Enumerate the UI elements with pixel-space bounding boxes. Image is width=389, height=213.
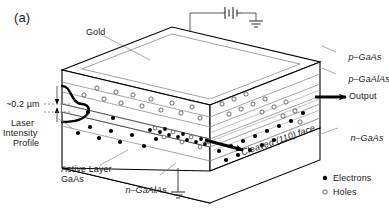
- label-output: Output: [349, 91, 377, 102]
- hole-marker: [244, 92, 248, 96]
- electron-marker: [154, 137, 158, 141]
- electron-marker: [130, 133, 134, 137]
- label-active-layer-line2: GaAs: [61, 174, 84, 185]
- legend-label-electrons: Electrons: [333, 173, 371, 184]
- label-laser-profile-line1: Laser: [11, 118, 34, 129]
- label-thickness: ~0.2 µm: [6, 99, 40, 110]
- hole-marker: [119, 101, 123, 105]
- legend-electron-dot: [323, 176, 327, 180]
- legend-markers: [323, 176, 327, 194]
- label-p-gaalas: p–GaAlAs: [338, 63, 389, 95]
- hole-marker: [149, 97, 153, 101]
- hole-marker: [159, 108, 163, 112]
- hole-marker: [293, 109, 297, 113]
- hole-marker: [131, 93, 135, 97]
- electron-marker: [118, 140, 122, 144]
- electron-marker: [109, 129, 113, 133]
- hole-marker: [95, 86, 99, 90]
- electron-marker: [289, 119, 293, 123]
- hole-marker: [251, 102, 255, 106]
- label-n-gaalas-text: n–GaAlAs: [125, 185, 166, 195]
- hole-marker: [140, 104, 144, 108]
- figure-panel-a: (a) Gold ~0.2 µm Laser Intensity Profile…: [0, 0, 389, 213]
- hole-marker: [190, 105, 194, 109]
- hole-marker: [298, 120, 302, 124]
- hole-marker: [82, 93, 86, 97]
- electron-marker: [97, 136, 101, 140]
- label-p-gaalas-text: p–GaAlAs: [348, 74, 389, 84]
- hole-marker: [220, 102, 224, 106]
- label-n-gaalas: n–GaAlAs: [115, 174, 167, 206]
- electron-marker: [76, 131, 80, 135]
- leader-n-gaas: [318, 128, 338, 135]
- electron-marker: [217, 149, 221, 153]
- label-laser-profile-line3: Profile: [13, 138, 39, 149]
- label-p-gaas-text: p–GaAs: [348, 52, 381, 62]
- hole-marker: [260, 110, 264, 114]
- legend-label-holes: Holes: [333, 187, 357, 198]
- electron-marker: [301, 111, 305, 115]
- electron-marker: [253, 134, 257, 138]
- electron-marker: [142, 144, 146, 148]
- hole-marker: [227, 112, 231, 116]
- laser-diode-diagram: [0, 0, 389, 213]
- hole-marker: [179, 111, 183, 115]
- label-n-gaas-text: n–GaAs: [350, 133, 383, 143]
- legend-hole-dot: [323, 190, 327, 194]
- hole-marker: [239, 107, 243, 111]
- electron-marker: [224, 158, 228, 162]
- hole-marker: [114, 90, 118, 94]
- hole-marker: [281, 114, 285, 118]
- electron-marker: [88, 125, 92, 129]
- hole-marker: [198, 116, 202, 120]
- label-gold: Gold: [86, 27, 105, 38]
- electron-marker: [277, 124, 281, 128]
- hole-marker: [102, 97, 106, 101]
- electron-marker: [236, 153, 240, 157]
- label-active-layer-line1: Active Layer: [61, 164, 112, 175]
- battery-symbol: [223, 7, 242, 19]
- hole-marker: [232, 97, 236, 101]
- leader-p-gaas: [322, 46, 336, 52]
- hole-marker: [263, 97, 267, 101]
- hole-marker: [272, 105, 276, 109]
- electron-marker: [241, 139, 245, 143]
- hole-marker: [170, 101, 174, 105]
- electron-marker: [265, 129, 269, 133]
- ground-symbol-top: [249, 21, 263, 27]
- label-n-gaas: n–GaAs: [340, 122, 384, 154]
- panel-label: (a): [14, 13, 30, 24]
- hole-marker: [284, 100, 288, 104]
- leader-p-gaalas: [322, 68, 336, 74]
- electron-marker: [111, 116, 115, 120]
- label-laser-profile-line2: Intensity: [3, 128, 37, 139]
